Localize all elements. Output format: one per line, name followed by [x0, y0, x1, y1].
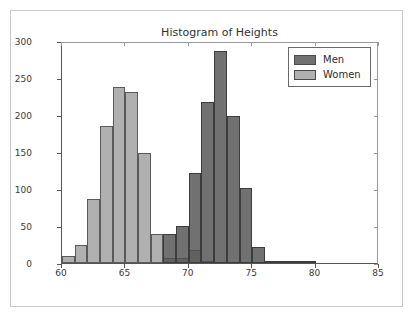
y-tick-mark-right-150: [374, 153, 378, 154]
x-tick-mark-top-85: [378, 42, 379, 46]
histogram-bar-women-62: [87, 199, 100, 263]
y-tick-label-150: 150: [6, 149, 32, 158]
x-tick-mark-top-60: [61, 42, 62, 46]
y-tick-mark-right-50: [374, 227, 378, 228]
histogram-bar-women-64: [113, 87, 126, 263]
x-tick-mark-70: [188, 264, 189, 268]
x-tick-mark-top-80: [315, 42, 316, 46]
y-tick-mark-250: [57, 79, 61, 80]
y-tick-mark-right-100: [374, 190, 378, 191]
histogram-bar-men-76: [265, 261, 278, 263]
histogram-bar-men-78: [290, 261, 303, 263]
legend-swatch-women: [294, 70, 316, 80]
histogram-bar-women-65: [125, 92, 138, 263]
y-tick-label-50: 50: [6, 223, 32, 232]
x-tick-mark-85: [378, 264, 379, 268]
legend-swatch-men: [294, 55, 316, 65]
y-tick-mark-50: [57, 227, 61, 228]
chart-title: Histogram of Heights: [61, 26, 378, 40]
x-tick-mark-60: [61, 264, 62, 268]
y-tick-mark-150: [57, 153, 61, 154]
x-tick-label-75: 75: [236, 268, 266, 278]
histogram-bar-men-77: [278, 261, 291, 263]
x-tick-mark-top-75: [251, 42, 252, 46]
x-tick-mark-75: [251, 264, 252, 268]
histogram-bar-women-61: [75, 245, 88, 264]
x-tick-label-80: 80: [300, 268, 330, 278]
y-tick-label-100: 100: [6, 186, 32, 195]
x-tick-mark-top-65: [124, 42, 125, 46]
x-tick-mark-65: [124, 264, 125, 268]
y-tick-label-200: 200: [6, 112, 32, 121]
x-tick-mark-80: [315, 264, 316, 268]
x-tick-mark-top-70: [188, 42, 189, 46]
legend-label-men: Men: [323, 54, 344, 65]
histogram-bar-men-74: [240, 188, 253, 263]
x-tick-label-85: 85: [363, 268, 393, 278]
y-tick-label-250: 250: [6, 75, 32, 84]
x-tick-label-70: 70: [173, 268, 203, 278]
histogram-bar-men-75: [252, 247, 265, 263]
figure-canvas: Histogram of Heights 0501001502002503006…: [0, 0, 415, 319]
histogram-bar-men-70: [189, 173, 202, 263]
histogram-bar-women-67: [151, 234, 164, 263]
histogram-bar-men-72: [214, 51, 227, 263]
y-tick-mark-right-250: [374, 79, 378, 80]
y-tick-mark-100: [57, 190, 61, 191]
chart-legend: Men Women: [288, 47, 371, 87]
histogram-bar-women-60: [62, 256, 75, 263]
legend-item-women: Women: [294, 67, 365, 82]
histogram-bar-men-73: [227, 116, 240, 263]
histogram-bar-women-63: [100, 126, 113, 263]
y-tick-label-0: 0: [6, 260, 32, 269]
legend-item-men: Men: [294, 52, 365, 67]
x-tick-label-60: 60: [46, 268, 76, 278]
histogram-bar-men-68: [163, 234, 176, 263]
y-tick-mark-200: [57, 116, 61, 117]
histogram-bar-men-79: [303, 261, 316, 263]
legend-label-women: Women: [323, 69, 361, 80]
histogram-bar-men-69: [176, 226, 189, 263]
x-tick-label-65: 65: [109, 268, 139, 278]
y-tick-mark-right-200: [374, 116, 378, 117]
y-tick-label-300: 300: [6, 38, 32, 47]
histogram-bar-women-66: [138, 153, 151, 263]
histogram-bar-men-71: [201, 102, 214, 263]
